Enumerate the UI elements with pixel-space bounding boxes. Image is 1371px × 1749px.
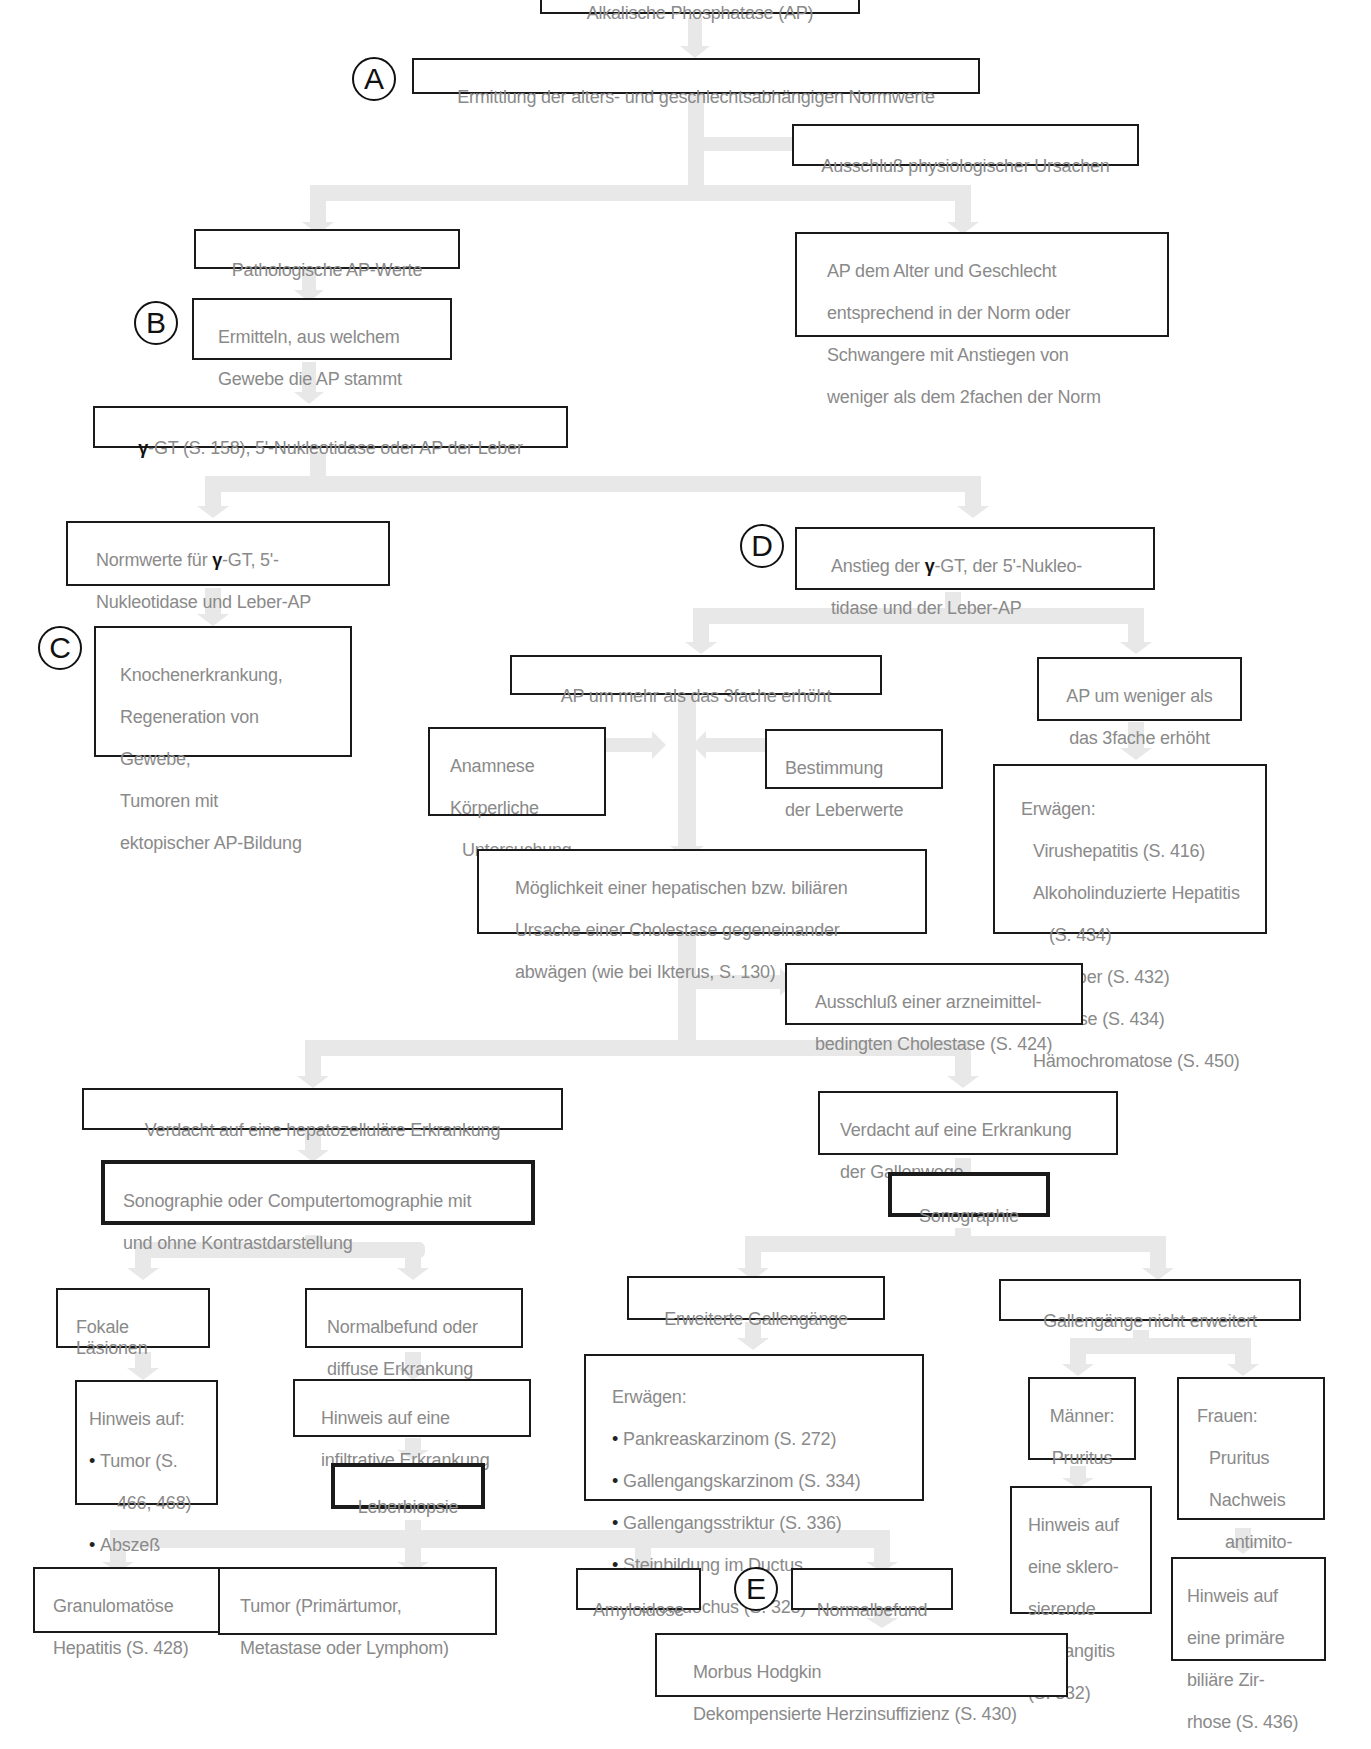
node-tumor: Tumor (Primärtumor, Metastase oder Lymph… [218, 1567, 497, 1635]
list-item: Virushepatitis (S. 416) [1021, 841, 1255, 862]
node-text: Bestimmung [785, 758, 931, 779]
node-text: -GT, der 5'-Nukleo- [934, 556, 1082, 576]
node-bestimmung-leberwerte: Bestimmung der Leberwerte [765, 729, 943, 789]
node-text: Pruritus [1040, 1448, 1124, 1469]
node-text: Pruritus [1197, 1448, 1313, 1469]
node-text: Möglichkeit einer hepatischen bzw. biliä… [515, 878, 915, 899]
node-text: biliäre Zir- [1187, 1670, 1314, 1691]
node-text: weniger als dem 2fachen der Norm [827, 387, 1157, 408]
node-text: Tumor (Primärtumor, [240, 1596, 485, 1617]
node-text: Granulomatöse [53, 1596, 221, 1617]
node-ausschluss-arzneimittel: Ausschluß einer arzneimittel- bedingten … [785, 963, 1083, 1025]
node-hodgkin-herzinsuffizienz: Morbus Hodgkin Dekompensierte Herzinsuff… [655, 1633, 1068, 1697]
node-text: -GT, 5'- [222, 550, 279, 570]
node-text: und ohne Kontrastdarstellung [123, 1233, 521, 1254]
node-text: Hinweis auf eine [321, 1408, 519, 1429]
list-item: Pankreaskarzinom (S. 272) [612, 1429, 912, 1450]
node-sklerosierende-cholangitis: Hinweis auf eine sklero- sierende Cholan… [1010, 1486, 1152, 1614]
node-text: Anstieg der [831, 556, 925, 576]
node-text: Hinweis auf [1187, 1586, 1314, 1607]
node-text: Gewebe, [120, 749, 340, 770]
node-ap-mehr-3fach: AP um mehr als das 3fache erhöht [510, 655, 882, 695]
node-text: Männer: [1040, 1406, 1124, 1427]
node-text: Knochenerkrankung, [120, 665, 340, 686]
list-item: 466, 468) [89, 1493, 206, 1514]
node-text: Nukleotidase und Leber-AP [96, 592, 378, 613]
node-text: Schwangere mit Anstiegen von [827, 345, 1157, 366]
node-text: tidase und der Leber-AP [831, 598, 1143, 619]
node-text: diffuse Erkrankung [327, 1359, 511, 1380]
node-verdacht-gallenwege: Verdacht auf eine Erkrankung der Gallenw… [818, 1091, 1118, 1155]
gamma-symbol: γ [925, 556, 935, 576]
node-text: Ermittlung der alters- und geschlechtsab… [457, 87, 935, 107]
list-item: Tumor (S. [89, 1451, 206, 1472]
node-text: Frauen: [1197, 1406, 1313, 1427]
list-item: Abszeß [89, 1535, 206, 1556]
node-gallengaenge-nicht-erweitert: Gallengänge nicht erweitert [999, 1279, 1301, 1321]
gamma-symbol: γ [138, 438, 148, 458]
node-moeglichkeit-cholestase: Möglichkeit einer hepatischen bzw. biliä… [477, 849, 927, 934]
node-text: Alkalische Phosphatase (AP) [587, 3, 814, 23]
node-text: Regeneration von [120, 707, 340, 728]
node-text: Nachweis [1197, 1490, 1313, 1511]
node-text: Dekompensierte Herzinsuffizienz (S. 430) [693, 1704, 1056, 1725]
node-ggt-nukleotidase: γ-GT (S. 158), 5'-Nukleotidase oder AP d… [93, 406, 568, 448]
marker-c: C [38, 626, 82, 670]
node-normalbefund-diffus: Normalbefund oder diffuse Erkrankung [305, 1288, 523, 1348]
node-text: Normalbefund oder [327, 1317, 511, 1338]
node-text: Ausschluß physiologischer Ursachen [821, 156, 1109, 176]
node-text: Normwerte für [96, 550, 212, 570]
node-text: Gallengänge nicht erweitert [1043, 1311, 1257, 1331]
node-alkaline-phosphatase-title: Alkalische Phosphatase (AP) [540, 0, 860, 14]
node-text: bedingten Cholestase (S. 424) [815, 1034, 1071, 1055]
node-normwerte-ggt: Normwerte für γ-GT, 5'- Nukleotidase und… [66, 521, 390, 586]
node-text: Ausschluß einer arzneimittel- [815, 992, 1071, 1013]
node-knochenerkrankung: Knochenerkrankung, Regeneration von Gewe… [94, 626, 352, 757]
marker-a: A [352, 57, 396, 101]
node-text: eine primäre [1187, 1628, 1314, 1649]
node-text: AP dem Alter und Geschlecht [827, 261, 1157, 282]
node-leberbiopsie: Leberbiopsie [331, 1463, 485, 1509]
list-item: Gallengangskarzinom (S. 334) [612, 1471, 912, 1492]
node-text: der Leberwerte [785, 800, 931, 821]
node-erwaegen-hepatitis: Erwägen: Virushepatitis (S. 416) Alkohol… [993, 764, 1267, 934]
node-fokale-laesionen: Fokale Läsionen in der Leber [56, 1288, 210, 1348]
node-granulomatoese-hepatitis: Granulomatöse Hepatitis (S. 428) [33, 1567, 233, 1633]
node-text: -GT (S. 158), 5'-Nukleotidase oder AP de… [148, 438, 523, 458]
node-text: Hinweis auf [1028, 1515, 1140, 1536]
node-erwaegen-gallengang: Erwägen: Pankreaskarzinom (S. 272) Galle… [584, 1354, 924, 1501]
node-pathologische-ap: Pathologische AP-Werte [194, 229, 460, 269]
node-text: entsprechend in der Norm oder [827, 303, 1157, 324]
node-text: Pathologische AP-Werte [232, 260, 422, 280]
node-normalbefund: Normalbefund [791, 1568, 953, 1610]
node-text: antimito- [1197, 1532, 1313, 1553]
node-text: Gewebe die AP stammt [218, 369, 440, 390]
gamma-symbol: γ [212, 550, 222, 570]
node-anamnese: Anamnese Körperliche Untersuchung [428, 727, 606, 816]
node-primaer-biliaere-zirrhose: Hinweis auf eine primäre biliäre Zir- rh… [1171, 1557, 1326, 1661]
node-text: Leberbiopsie [358, 1497, 459, 1517]
node-maenner: Männer: Pruritus Kolitis [1028, 1377, 1136, 1460]
node-text: ektopischer AP-Bildung [120, 833, 340, 854]
node-text: eine sklero- [1028, 1557, 1140, 1578]
node-gewebe-ermitteln: Ermitteln, aus welchem Gewebe die AP sta… [192, 298, 452, 360]
node-text: Erwägen: [1021, 799, 1255, 820]
node-text: AP um mehr als das 3fache erhöht [561, 686, 831, 706]
node-text: sierende [1028, 1599, 1140, 1620]
node-text: Erwägen: [612, 1387, 912, 1408]
list-item: Alkoholinduzierte Hepatitis [1021, 883, 1255, 904]
node-text: Verdacht auf eine Erkrankung [840, 1120, 1106, 1141]
node-text: Metastase oder Lymphom) [240, 1638, 485, 1659]
node-text: Hepatitis (S. 428) [53, 1638, 221, 1659]
node-verdacht-hepatozellulaer: Verdacht auf eine hepatozelluläre Erkran… [82, 1088, 563, 1130]
node-text: Normalbefund [817, 1600, 928, 1620]
node-text: rhose (S. 436) [1187, 1712, 1314, 1733]
node-anstieg-ggt: Anstieg der γ-GT, der 5'-Nukleo- tidase … [795, 527, 1155, 590]
node-text: Fokale Läsionen [76, 1317, 198, 1359]
node-hinweis-fokal: Hinweis auf: Tumor (S. 466, 468) Abszeß … [75, 1380, 218, 1505]
node-text: Erweiterte Gallengänge [664, 1309, 848, 1329]
flowchart-canvas: Alkalische Phosphatase (AP) A Ermittlung… [0, 0, 1371, 1749]
node-text: Ursache einer Cholestase gegeneinander [515, 920, 915, 941]
node-amyloidose: Amyloidose [576, 1568, 701, 1610]
node-text: Tumoren mit [120, 791, 340, 812]
